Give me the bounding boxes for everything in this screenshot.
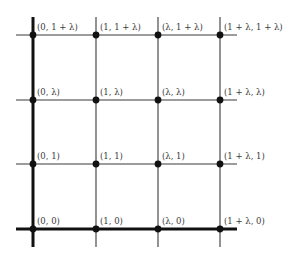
point-label: (0, 0) (37, 217, 60, 226)
lattice-point (217, 32, 224, 39)
lattice-point (30, 226, 37, 233)
point-label: (0, λ) (37, 88, 60, 97)
lattice-point (30, 97, 37, 104)
lattice-point (93, 161, 100, 168)
point-label: (1, λ) (100, 88, 123, 97)
lattice-point (30, 32, 37, 39)
lattice-point (93, 97, 100, 104)
lattice-point (155, 161, 162, 168)
point-label: (1, 0) (100, 217, 123, 226)
point-label: (1 + λ, 0) (224, 217, 265, 226)
lattice-point (217, 97, 224, 104)
lattice-diagram: (0, 1 + λ)(1, 1 + λ)(λ, 1 + λ)(1 + λ, 1 … (0, 0, 291, 256)
point-label: (λ, 1) (162, 152, 185, 161)
point-label: (1 + λ, 1 + λ) (224, 23, 283, 32)
point-label: (0, 1 + λ) (37, 23, 78, 32)
point-label: (1 + λ, λ) (224, 88, 265, 97)
point-label: (1, 1 + λ) (100, 23, 141, 32)
point-label: (1 + λ, 1) (224, 152, 265, 161)
lattice-point (155, 97, 162, 104)
point-label: (λ, 0) (162, 217, 185, 226)
lattice-point (155, 226, 162, 233)
lattice-point (93, 226, 100, 233)
lattice-point (155, 32, 162, 39)
point-label: (1, 1) (100, 152, 123, 161)
lattice-point (217, 226, 224, 233)
lattice-point (30, 161, 37, 168)
point-label: (λ, λ) (162, 88, 185, 97)
lattice-point (93, 32, 100, 39)
point-label: (λ, 1 + λ) (162, 23, 203, 32)
point-label: (0, 1) (37, 152, 60, 161)
lattice-point (217, 161, 224, 168)
